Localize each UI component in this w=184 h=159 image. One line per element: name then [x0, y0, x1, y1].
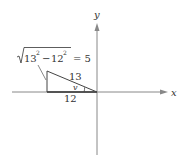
x-axis-arrow-icon: [160, 90, 168, 95]
formula-exp-b: 2: [63, 49, 67, 56]
angle-label: v: [73, 83, 78, 92]
formula-term-a: 13: [24, 53, 37, 64]
y-axis-label: y: [93, 9, 100, 20]
formula-term-b: 12: [51, 53, 64, 64]
leader-line: [38, 65, 46, 80]
opposite-side-formula: 13 2 − 12 2 = 5: [17, 48, 91, 65]
formula-result: = 5: [73, 53, 91, 64]
diagram-canvas: x y 13 v 12 13 2 − 12 2 = 5: [0, 0, 184, 159]
y-axis: y: [93, 9, 100, 155]
adjacent-label: 12: [64, 93, 77, 104]
formula-minus: −: [42, 53, 50, 64]
formula-exp-a: 2: [36, 49, 40, 56]
x-axis-label: x: [171, 87, 177, 98]
angle-arc-icon: [84, 87, 85, 92]
y-axis-arrow-icon: [95, 23, 100, 31]
hypotenuse-label: 13: [69, 71, 82, 82]
